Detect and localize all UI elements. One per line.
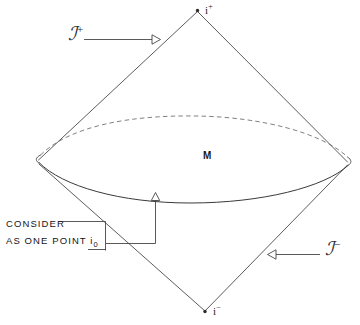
- label-future-null-infinity: ℐ+: [68, 22, 83, 45]
- label-past-timelike-infinity: i−: [213, 303, 221, 317]
- annotation-line-2-text: AS ONE POINT i: [6, 235, 94, 246]
- annotation-line-1: CONSIDER: [6, 215, 98, 232]
- spacelike-slice-lens: [36, 116, 351, 203]
- slice-arc-upper-dashed: [41, 116, 348, 157]
- label-scri-minus-glyph: ℐ: [325, 238, 334, 259]
- label-manifold-M: M: [203, 150, 212, 161]
- vertex-dot-i-plus: [196, 9, 199, 12]
- conformal-boundary-diamond: [39, 12, 348, 312]
- edge-scri-plus-right: [198, 12, 348, 163]
- annotation-i0-subscript: 0: [94, 240, 98, 249]
- label-scri-minus-sup: −: [334, 238, 340, 250]
- penrose-diagram-figure: i+ i− ℐ+ ℐ− M CONSIDER AS ONE POINT i0: [0, 0, 360, 325]
- label-i-minus-sup: −: [216, 303, 221, 312]
- scri-plus-arrowhead-icon: [152, 35, 161, 44]
- vertex-dot-i-minus: [203, 310, 206, 313]
- scri-minus-callout-leader: [268, 250, 321, 259]
- diagram-canvas: [0, 0, 360, 325]
- label-future-timelike-infinity: i+: [205, 2, 213, 16]
- vertex-markers: [196, 9, 207, 313]
- label-scri-plus-glyph: ℐ: [68, 23, 77, 44]
- slice-arc-lower-solid: [40, 163, 349, 203]
- label-scri-plus-sup: +: [77, 23, 83, 35]
- slice-cusp-right: [348, 157, 351, 166]
- annotation-consider-as-one-point: CONSIDER AS ONE POINT i0: [6, 215, 98, 253]
- scri-minus-arrowhead-icon: [268, 250, 277, 259]
- label-i-plus-sup: +: [208, 2, 213, 11]
- annotation-line-2: AS ONE POINT i0: [6, 232, 98, 253]
- edge-scri-plus-left: [39, 12, 198, 161]
- label-past-null-infinity: ℐ−: [325, 237, 340, 260]
- note-up-arrowhead-icon: [151, 193, 159, 201]
- scri-plus-callout-leader: [84, 35, 161, 44]
